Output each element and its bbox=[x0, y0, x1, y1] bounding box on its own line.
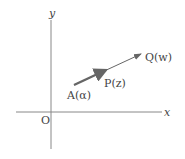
x-axis-label: x bbox=[164, 106, 171, 119]
origin-label: O bbox=[41, 114, 50, 127]
point-q-label: Q(w) bbox=[145, 51, 172, 64]
vector-ap bbox=[74, 70, 106, 85]
diagram-canvas: y x O A(α) P(z) Q(w) bbox=[0, 0, 185, 159]
point-p-label: P(z) bbox=[104, 77, 126, 90]
y-axis-label: y bbox=[48, 7, 56, 20]
complex-plane-diagram: y x O A(α) P(z) Q(w) bbox=[0, 0, 185, 159]
point-a-label: A(α) bbox=[66, 89, 91, 102]
